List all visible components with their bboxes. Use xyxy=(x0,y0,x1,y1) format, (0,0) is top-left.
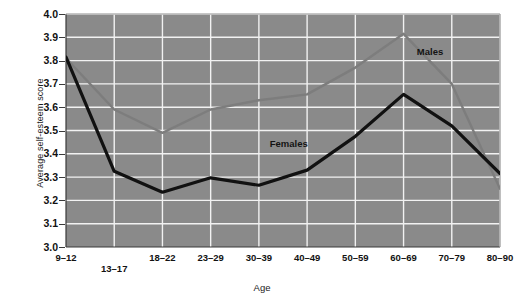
series-label-females: Females xyxy=(270,138,308,149)
x-tick-label: 60–69 xyxy=(390,252,416,263)
x-tick-label: 80–90 xyxy=(487,252,513,263)
x-tick-label: 13–17 xyxy=(101,263,127,274)
x-tick-label: 70–79 xyxy=(439,252,465,263)
y-tick-label: 3.0 xyxy=(32,242,58,253)
y-tick-label: 3.9 xyxy=(32,32,58,43)
y-tick-label: 3.7 xyxy=(32,78,58,89)
y-tick-label: 3.8 xyxy=(32,55,58,66)
y-tick-label: 3.3 xyxy=(32,172,58,183)
y-tick-label: 3.4 xyxy=(32,148,58,159)
y-tick-mark xyxy=(59,247,65,248)
y-tick-mark xyxy=(59,200,65,201)
y-tick-mark xyxy=(59,61,65,62)
y-tick-mark xyxy=(59,107,65,108)
x-tick-label: 9–12 xyxy=(55,252,76,263)
y-tick-label: 4.0 xyxy=(32,9,58,20)
y-tick-mark xyxy=(59,154,65,155)
y-tick-label: 3.5 xyxy=(32,125,58,136)
y-tick-mark xyxy=(59,177,65,178)
y-tick-mark xyxy=(59,14,65,15)
series-label-males: Males xyxy=(417,46,443,57)
x-tick-label: 18–22 xyxy=(149,252,175,263)
x-tick-label: 23–29 xyxy=(197,252,223,263)
x-tick-label: 30–39 xyxy=(246,252,272,263)
y-tick-label: 3.6 xyxy=(32,102,58,113)
y-axis-tick-labels: 3.03.13.23.33.43.53.63.73.83.94.0 xyxy=(28,0,58,303)
chart-figure: Average self-esteem score 3.03.13.23.33.… xyxy=(0,0,524,303)
y-tick-label: 3.2 xyxy=(32,195,58,206)
y-tick-mark xyxy=(59,131,65,132)
y-tick-label: 3.1 xyxy=(32,218,58,229)
y-tick-mark xyxy=(59,224,65,225)
x-tick-label: 40–49 xyxy=(294,252,320,263)
y-tick-mark xyxy=(59,84,65,85)
x-axis-title: Age xyxy=(0,282,524,293)
x-tick-label: 50–59 xyxy=(342,252,368,263)
y-tick-mark xyxy=(59,37,65,38)
